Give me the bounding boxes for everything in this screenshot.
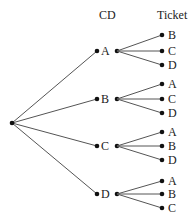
ticket-node-label: B	[168, 188, 176, 200]
ticket-node-dot	[160, 111, 165, 116]
cd-branch-line	[12, 51, 97, 123]
ticket-node-dot	[160, 82, 165, 87]
cd-branch-line	[12, 123, 97, 194]
ticket-header: Ticket	[157, 9, 187, 21]
ticket-node-dot	[160, 63, 165, 68]
cd-node-dot	[95, 192, 100, 197]
ticket-node-label: C	[168, 93, 176, 105]
ticket-branch-line	[117, 51, 162, 65]
ticket-node-dot	[160, 192, 165, 197]
ticket-node-label: C	[168, 45, 176, 57]
ticket-node-dot	[160, 33, 165, 38]
ticket-node-label: A	[168, 78, 177, 90]
ticket-branch-line	[117, 84, 162, 99]
cd-node-dot	[95, 97, 100, 102]
cd-node-label: A	[101, 45, 110, 57]
ticket-node-label: A	[168, 126, 177, 138]
ticket-node-label: B	[168, 140, 176, 152]
ticket-branch-line	[117, 35, 162, 51]
cd-node-dot	[95, 49, 100, 54]
cd-branch-line	[12, 123, 97, 146]
cd-branch-line	[12, 99, 97, 123]
ticket-node-label: A	[168, 175, 177, 187]
ticket-node-label: D	[168, 107, 177, 119]
cd-node-dot	[95, 144, 100, 149]
ticket-node-dot	[160, 179, 165, 184]
cd-node-label: B	[101, 93, 109, 105]
cd-header: CD	[99, 9, 116, 21]
cd-node-label: D	[101, 188, 110, 200]
root-node-dot	[10, 121, 15, 126]
ticket-branch-line	[117, 181, 162, 194]
ticket-branch-line	[117, 146, 162, 160]
tree-diagram	[0, 0, 194, 223]
ticket-node-label: C	[168, 202, 176, 214]
ticket-node-dot	[160, 144, 165, 149]
ticket-node-label: B	[168, 29, 176, 41]
ticket-branch-line	[117, 99, 162, 113]
cd-node-label: C	[101, 140, 109, 152]
ticket-branch-line	[117, 194, 162, 208]
ticket-branch-line	[117, 132, 162, 146]
ticket-node-dot	[160, 97, 165, 102]
ticket-node-dot	[160, 158, 165, 163]
ticket-node-label: D	[168, 59, 177, 71]
ticket-node-dot	[160, 206, 165, 211]
ticket-node-dot	[160, 130, 165, 135]
ticket-node-label: D	[168, 154, 177, 166]
ticket-node-dot	[160, 49, 165, 54]
